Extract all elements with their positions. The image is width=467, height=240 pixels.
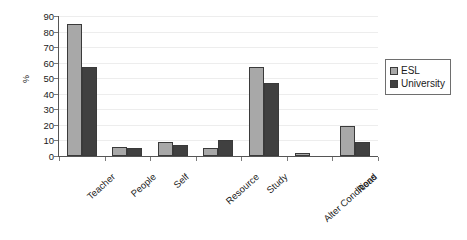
x-axis-tick [105, 157, 106, 161]
y-axis-tick-label: 30 [30, 105, 54, 114]
bar-university[interactable] [264, 83, 279, 156]
x-axis-tick [59, 157, 60, 161]
y-axis-tick-label: 20 [30, 120, 54, 129]
x-axis-tick-label: People [129, 171, 158, 199]
y-axis-tick-labels: 9080706050403020100 [30, 16, 54, 156]
x-axis-tick-label: Teacher [84, 171, 116, 202]
x-axis-tick [287, 157, 288, 161]
bar-university[interactable] [127, 148, 142, 156]
x-axis-tick-label: Self [171, 171, 191, 190]
plot-area [59, 16, 378, 156]
bar-esl[interactable] [67, 24, 82, 156]
esl-swatch-icon [390, 67, 398, 75]
y-axis-tick-label: 0 [30, 152, 54, 161]
bar-group [241, 16, 287, 156]
chart-legend: ESL University [385, 59, 451, 95]
legend-label-esl: ESL [401, 65, 420, 76]
bar-university[interactable] [173, 145, 188, 156]
x-axis-tick [196, 157, 197, 161]
bar-esl[interactable] [340, 126, 355, 156]
bar-group [287, 16, 333, 156]
bar-group [150, 16, 196, 156]
bar-chart: % 9080706050403020100 TeacherPeopleSelfR… [0, 0, 467, 240]
legend-label-university: University [401, 78, 445, 89]
bar-esl[interactable] [112, 147, 127, 156]
x-axis-tick-label: Study [264, 171, 289, 195]
university-swatch-icon [390, 80, 398, 88]
bar-university[interactable] [355, 142, 370, 156]
bar-group [332, 16, 378, 156]
bar-esl[interactable] [249, 67, 264, 156]
x-axis-ticks [59, 157, 378, 162]
legend-item-esl[interactable]: ESL [390, 64, 445, 77]
bar-esl[interactable] [158, 142, 173, 156]
x-axis-tick [332, 157, 333, 161]
y-axis-tick-label: 60 [30, 58, 54, 67]
x-axis-tick-label: Resource [223, 171, 261, 206]
y-axis-tick-label: 10 [30, 136, 54, 145]
y-axis-tick-label: 40 [30, 89, 54, 98]
x-axis-tick [150, 157, 151, 161]
bar-university[interactable] [218, 140, 233, 156]
y-axis-tick-label: 90 [30, 12, 54, 21]
x-axis-tick [241, 157, 242, 161]
bar-group [105, 16, 151, 156]
bar-esl[interactable] [203, 148, 218, 156]
legend-item-university[interactable]: University [390, 77, 445, 90]
y-axis-tick-label: 70 [30, 43, 54, 52]
bar-university[interactable] [82, 67, 97, 156]
y-axis-tick-label: 50 [30, 74, 54, 83]
x-axis-tick [378, 157, 379, 161]
bar-esl[interactable] [295, 153, 310, 156]
bar-group [59, 16, 105, 156]
x-axis-tick-label: Read [355, 171, 379, 194]
y-axis-tick-label: 80 [30, 27, 54, 36]
bar-group [196, 16, 242, 156]
